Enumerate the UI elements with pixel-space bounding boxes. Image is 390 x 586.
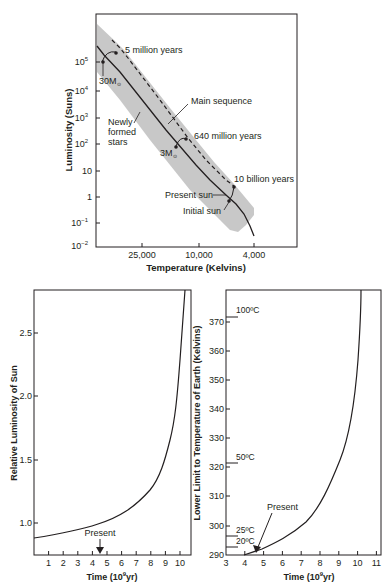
hr-y-tick-labels: 105 104 103 102 10 1 10−1 10−2 (71, 56, 92, 251)
hr-x-ticks (142, 243, 254, 247)
svg-text:320: 320 (209, 462, 224, 472)
svg-text:25,000: 25,000 (128, 250, 156, 260)
svg-text:6: 6 (280, 558, 285, 568)
lum-x-axis-label: Time (109yr) (86, 571, 137, 582)
svg-text:10,000: 10,000 (185, 250, 213, 260)
svg-text:10: 10 (353, 558, 363, 568)
svg-text:8: 8 (148, 558, 153, 568)
svg-text:330: 330 (209, 433, 224, 443)
luminosity-chart: 2.5 2.0 1.5 1.0 1 2 3 4 5 6 7 8 9 10 Tim… (9, 290, 191, 582)
arrow-down-icon (96, 547, 104, 554)
figure: 105 104 103 102 10 1 10−1 10−2 25,000 10… (0, 0, 390, 586)
svg-text:9: 9 (163, 558, 168, 568)
label-main-sequence: Main sequence (191, 96, 252, 106)
svg-text:50ºC: 50ºC (236, 452, 255, 462)
svg-text:104: 104 (75, 85, 89, 96)
svg-text:340: 340 (209, 404, 224, 414)
svg-text:100ºC: 100ºC (236, 305, 259, 315)
temperature-chart: 370 360 350 340 330 320 310 300 290 100º… (192, 290, 381, 582)
svg-text:10: 10 (175, 558, 185, 568)
svg-text:1.5: 1.5 (19, 455, 32, 465)
svg-text:290: 290 (209, 550, 224, 560)
label-640-million-years: 640 million years (194, 131, 262, 141)
svg-text:5: 5 (104, 558, 109, 568)
marker-10by (232, 185, 236, 189)
label-10-billion-years: 10 billion years (234, 174, 295, 184)
hr-x-tick-labels: 25,000 10,000 4,000 (128, 250, 265, 260)
label-5-million-years: 5 million years (125, 45, 183, 55)
svg-text:7: 7 (299, 558, 304, 568)
svg-text:350: 350 (209, 375, 224, 385)
svg-text:310: 310 (209, 491, 224, 501)
svg-text:370: 370 (209, 317, 224, 327)
svg-text:3: 3 (223, 558, 228, 568)
temp-present-arrow-shaft (258, 513, 272, 547)
hr-diagram: 105 104 103 102 10 1 10−1 10−2 25,000 10… (63, 14, 297, 273)
lum-frame (34, 290, 191, 555)
svg-text:20ºC: 20ºC (236, 536, 255, 546)
svg-text:105: 105 (75, 56, 89, 67)
marker-3msun (174, 145, 178, 149)
svg-text:10: 10 (82, 166, 92, 176)
label-initial-sun: Initial sun (183, 206, 221, 216)
svg-text:103: 103 (75, 112, 89, 123)
svg-text:4: 4 (90, 558, 95, 568)
luminosity-curve (34, 290, 185, 538)
svg-text:9: 9 (336, 558, 341, 568)
temp-x-axis-label: Time (109yr) (283, 571, 334, 582)
lum-x-tick-labels: 1 2 3 4 5 6 7 8 9 10 (46, 558, 185, 568)
lum-present-label: Present (84, 528, 116, 538)
svg-text:8: 8 (317, 558, 322, 568)
svg-text:25ºC: 25ºC (236, 525, 255, 535)
marker-5my (114, 51, 118, 55)
label-newly-formed-stars: Newly formed stars (108, 117, 139, 147)
svg-text:360: 360 (209, 346, 224, 356)
svg-text:2.0: 2.0 (19, 391, 32, 401)
label-present-sun: Present sun (165, 190, 213, 200)
marker-640my (184, 137, 188, 141)
svg-text:6: 6 (119, 558, 124, 568)
hr-y-ticks (96, 62, 100, 223)
lum-y-ticks (34, 333, 38, 523)
hr-y-axis-label: Luminosity (Suns) (63, 89, 74, 172)
lum-y-axis-label: Relative Luminosity of Sun (9, 365, 19, 481)
svg-text:7: 7 (134, 558, 139, 568)
temp-frame (226, 290, 381, 555)
temp-reference-labels: 100ºC 50ºC 25ºC 20ºC (236, 305, 259, 546)
svg-text:10−1: 10−1 (71, 217, 89, 228)
lum-x-ticks (49, 551, 180, 555)
temp-y-axis-label: Lower Limit to Temperature of Earth (Kel… (192, 326, 202, 521)
svg-text:11: 11 (372, 558, 381, 568)
hr-x-axis-label: Temperature (Kelvins) (146, 262, 246, 273)
svg-text:102: 102 (75, 138, 89, 149)
svg-text:2.5: 2.5 (19, 328, 32, 338)
temp-present-label: Present (267, 502, 299, 512)
temp-x-tick-labels: 3 4 5 6 7 8 9 10 11 (223, 558, 381, 568)
svg-text:2: 2 (61, 558, 66, 568)
svg-text:3: 3 (75, 558, 80, 568)
svg-text:4: 4 (242, 558, 247, 568)
temp-x-ticks (245, 551, 377, 555)
svg-text:1: 1 (87, 192, 92, 202)
svg-text:5: 5 (261, 558, 266, 568)
temperature-curve (244, 290, 361, 555)
temp-y-ticks (226, 322, 230, 526)
svg-text:300: 300 (209, 521, 224, 531)
svg-text:1.0: 1.0 (19, 518, 32, 528)
temp-y-tick-labels: 370 360 350 340 330 320 310 300 290 (209, 317, 224, 560)
svg-text:1: 1 (46, 558, 51, 568)
svg-text:10−2: 10−2 (71, 240, 89, 251)
svg-text:4,000: 4,000 (243, 250, 266, 260)
lum-y-tick-labels: 2.5 2.0 1.5 1.0 (19, 328, 32, 528)
